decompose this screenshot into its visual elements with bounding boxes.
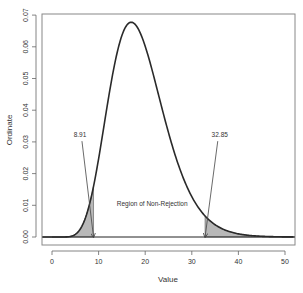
y-tick-label: 0.06 — [22, 40, 29, 54]
x-tick-label: 50 — [281, 258, 289, 265]
x-tick-label: 10 — [95, 258, 103, 265]
plot-box — [42, 14, 295, 245]
y-tick-label: 0.01 — [22, 198, 29, 212]
y-tick-label: 0.04 — [22, 103, 29, 117]
x-axis: 01020304050 — [50, 251, 289, 265]
y-axis: 0.000.010.020.030.040.050.060.07 — [22, 8, 36, 244]
y-axis-label: Ordinate — [5, 114, 14, 145]
y-tick-label: 0.02 — [22, 167, 29, 181]
x-tick-label: 0 — [50, 258, 54, 265]
y-tick-label: 0.05 — [22, 72, 29, 86]
y-tick-label: 0.07 — [22, 8, 29, 22]
critical-value-label: 32.85 — [212, 131, 229, 138]
x-axis-label: Value — [158, 275, 178, 284]
x-tick-label: 30 — [188, 258, 196, 265]
x-tick-label: 20 — [141, 258, 149, 265]
x-tick-label: 40 — [235, 258, 243, 265]
y-tick-label: 0.03 — [22, 135, 29, 149]
critical-value-label: 8.91 — [74, 131, 87, 138]
y-tick-label: 0.00 — [22, 230, 29, 244]
non-rejection-label: Region of Non-Rejection — [117, 200, 188, 208]
chi-square-density-chart: 01020304050 0.000.010.020.030.040.050.06… — [0, 0, 303, 293]
